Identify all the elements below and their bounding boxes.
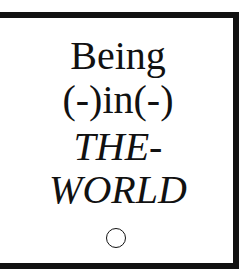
title-line-world: WORLD — [0, 168, 236, 212]
title-line-in: (-)in(-) — [0, 78, 236, 122]
title-line-being: Being — [0, 34, 236, 78]
circle-icon — [106, 228, 126, 248]
title-line-the: THE- — [0, 125, 236, 169]
